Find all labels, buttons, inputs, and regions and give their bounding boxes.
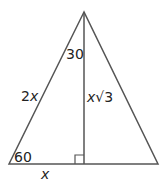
altitude-label: x√3 — [86, 89, 113, 105]
hypotenuse-var: x — [29, 88, 39, 104]
right-angle-marker — [75, 155, 84, 164]
triangle-diagram: 30 60 2x x√3 x — [0, 0, 166, 184]
angle-60-label: 60 — [14, 149, 32, 165]
hypotenuse-label: 2x — [21, 88, 39, 104]
angle-30-label: 30 — [66, 46, 84, 62]
hypotenuse-coef: 2 — [21, 88, 30, 104]
base-label: x — [40, 166, 50, 182]
altitude-root: √3 — [95, 89, 113, 105]
